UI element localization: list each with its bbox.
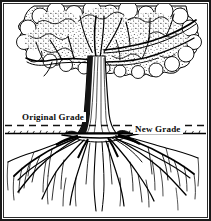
outer-border bbox=[0, 0, 211, 221]
tree-grade-diagram: Original Grade New Grade bbox=[0, 0, 211, 221]
new-grade-label: New Grade bbox=[133, 124, 183, 134]
original-grade-label: Original Grade bbox=[20, 112, 86, 122]
